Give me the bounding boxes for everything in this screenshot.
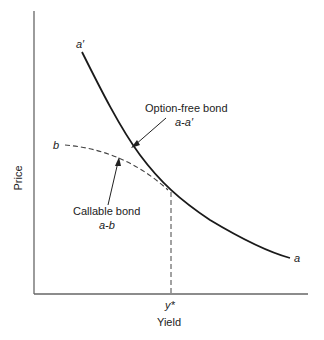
y-star-tick-label: y* <box>165 299 175 312</box>
price-yield-diagram <box>0 0 324 340</box>
curve-label-a-prime: a′ <box>76 38 84 51</box>
callable-arrow <box>108 162 118 205</box>
curve-label-b: b <box>53 139 59 152</box>
y-axis-label: Price <box>12 158 24 198</box>
x-axis-label: Yield <box>157 316 181 329</box>
option-free-annotation-title: Option-free bond <box>145 102 228 115</box>
callable-annotation-title: Callable bond <box>73 205 140 218</box>
curve-label-a: a <box>294 252 300 265</box>
option-free-annotation-subtitle: a-a′ <box>175 116 193 129</box>
option-free-arrow <box>135 118 166 145</box>
callable-annotation-subtitle: a-b <box>99 219 115 232</box>
